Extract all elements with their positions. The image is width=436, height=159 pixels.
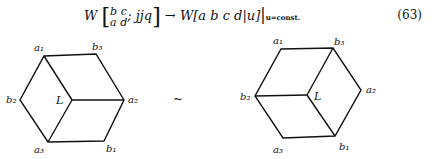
tilde-relation: ~ (173, 92, 183, 106)
label-L: L (55, 94, 63, 107)
hexagon-diagrams: a₁ b₃ a₂ b₁ a₃ b₂ L ~ a₁ b₃ a₂ b₁ a₃ b₂ … (0, 0, 436, 159)
label-a2: a₂ (128, 94, 138, 105)
label-b2: b₂ (6, 94, 16, 105)
label-a3: a₃ (273, 144, 283, 155)
label-a1: a₁ (273, 35, 283, 46)
label-a2: a₂ (366, 84, 376, 95)
label-b2: b₂ (240, 91, 250, 102)
label-b3: b₃ (92, 41, 102, 52)
left-hexagon (20, 54, 124, 142)
label-a3: a₃ (34, 144, 44, 155)
label-b1: b₁ (106, 143, 116, 154)
paper-figure: W [b ca d; jjq] → W[a b c d|u]|u=const. … (0, 0, 436, 159)
label-L: L (313, 90, 321, 103)
label-b1: b₁ (339, 141, 349, 152)
label-a1: a₁ (34, 42, 44, 53)
label-b3: b₃ (334, 36, 344, 47)
right-hexagon (255, 48, 361, 138)
